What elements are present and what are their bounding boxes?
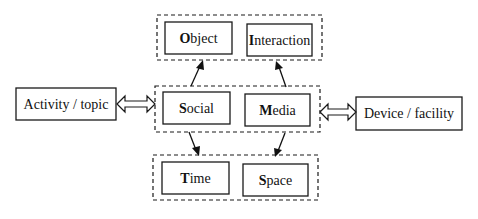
group-bottom: Time Space [153, 155, 318, 200]
smile-framework-diagram: Object Interaction Social Media [0, 0, 478, 219]
group-middle: Social Media [155, 86, 320, 132]
svg-text:Object: Object [179, 31, 217, 46]
svg-text:Interaction: Interaction [249, 33, 310, 48]
arrowhead-icon [196, 60, 204, 70]
node-space: Space [243, 164, 308, 196]
arrow-social-to-time [189, 132, 200, 156]
arrow-media-to-interaction [275, 61, 286, 87]
group-top: Object Interaction [157, 15, 322, 60]
arrowhead-icon [274, 148, 282, 157]
node-activity-topic: Activity / topic [16, 88, 116, 120]
arrow-media-to-space [274, 133, 285, 157]
svg-text:Activity / topic: Activity / topic [24, 97, 109, 112]
svg-text:Social: Social [179, 101, 214, 116]
double-arrow-left-icon [117, 96, 155, 112]
svg-text:Device / facility: Device / facility [364, 106, 454, 121]
node-interaction: Interaction [247, 24, 312, 56]
arrowhead-icon [275, 61, 283, 70]
double-arrow-right-icon [320, 104, 356, 120]
node-social: Social [163, 92, 230, 124]
arrow-social-to-object [191, 60, 204, 86]
node-media: Media [245, 94, 310, 126]
node-time: Time [162, 162, 229, 194]
svg-text:Media: Media [259, 103, 296, 118]
node-object: Object [165, 22, 232, 54]
svg-text:Time: Time [180, 171, 210, 186]
node-device-facility: Device / facility [356, 97, 462, 130]
svg-text:Space: Space [259, 173, 292, 188]
